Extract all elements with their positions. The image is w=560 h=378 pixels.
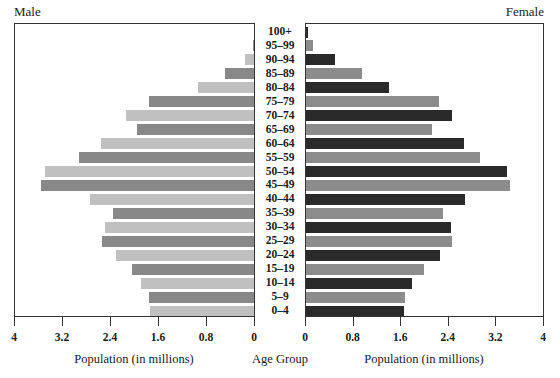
female-bar (306, 194, 465, 205)
male-bar (198, 82, 254, 93)
male-axis-tick-label: 0 (239, 331, 269, 343)
male-axis-tick-label: 3.2 (47, 331, 77, 343)
female-bar (306, 96, 439, 107)
male-bar (101, 138, 254, 149)
age-group-label: 85–89 (255, 66, 305, 80)
female-bar (306, 82, 389, 93)
female-axis-tick-label: 1.6 (385, 331, 415, 343)
age-group-label: 0–4 (255, 303, 305, 317)
female-bar (306, 138, 464, 149)
male-axis-tick-label: 0.8 (191, 331, 221, 343)
male-axis-tick (62, 316, 63, 326)
male-bar (225, 68, 254, 79)
female-bar (306, 152, 480, 163)
male-bar (116, 250, 254, 261)
age-group-label: 60–64 (255, 136, 305, 150)
female-axis-tick (543, 316, 544, 326)
female-axis-tick-label: 4 (528, 331, 558, 343)
male-bar (102, 236, 254, 247)
age-group-label: 70–74 (255, 108, 305, 122)
male-axis-tick (14, 316, 15, 326)
male-bar (132, 264, 254, 275)
age-group-label: 80–84 (255, 80, 305, 94)
male-bar (113, 208, 254, 219)
male-bar (41, 180, 254, 191)
female-bar (306, 124, 432, 135)
female-axis-tick (495, 316, 496, 326)
female-bar (306, 278, 412, 289)
female-axis-tick-label: 2.4 (433, 331, 463, 343)
male-axis-tick (158, 316, 159, 326)
male-bar (149, 292, 254, 303)
female-axis-tick (400, 316, 401, 326)
age-group-label: 35–39 (255, 205, 305, 219)
age-group-axis-title: Age Group (240, 352, 320, 367)
female-bar (306, 250, 440, 261)
female-axis-tick (353, 316, 354, 326)
age-group-label: 40–44 (255, 191, 305, 205)
age-group-label: 50–54 (255, 164, 305, 178)
female-bar (306, 306, 404, 317)
female-x-axis (305, 316, 544, 317)
male-bar (90, 194, 254, 205)
female-bar (306, 222, 451, 233)
male-x-axis-title: Population (in millions) (44, 352, 224, 367)
female-axis-tick-label: 0 (290, 331, 320, 343)
male-bar (245, 54, 254, 65)
male-bar (105, 222, 254, 233)
age-group-label: 25–29 (255, 233, 305, 247)
age-group-label: 30–34 (255, 219, 305, 233)
male-bar (150, 306, 254, 317)
female-axis-tick-label: 3.2 (480, 331, 510, 343)
age-group-label: 5–9 (255, 289, 305, 303)
male-title: Male (14, 4, 41, 20)
age-group-label: 65–69 (255, 122, 305, 136)
male-bar (79, 152, 254, 163)
age-group-label: 15–19 (255, 261, 305, 275)
male-axis-tick-label: 4 (0, 331, 29, 343)
male-bar (126, 110, 254, 121)
age-group-label: 10–14 (255, 275, 305, 289)
age-group-label: 20–24 (255, 247, 305, 261)
male-axis-tick (206, 316, 207, 326)
female-bar (306, 110, 452, 121)
female-bar (306, 236, 452, 247)
female-bar (306, 40, 313, 51)
male-axis-tick-label: 2.4 (95, 331, 125, 343)
male-bar (141, 278, 254, 289)
female-bar (306, 166, 507, 177)
female-bar (306, 27, 308, 38)
male-bar (137, 124, 254, 135)
female-bar (306, 264, 424, 275)
female-bar (306, 292, 405, 303)
age-group-label: 90–94 (255, 52, 305, 66)
male-axis-tick (254, 316, 255, 326)
female-plot-area (305, 23, 544, 316)
male-bar (253, 40, 254, 51)
female-axis-tick-label: 0.8 (338, 331, 368, 343)
female-title: Female (506, 4, 544, 20)
male-axis-tick-label: 1.6 (143, 331, 173, 343)
male-bar (45, 166, 254, 177)
female-axis-tick (305, 316, 306, 326)
male-plot-area (14, 23, 255, 316)
age-group-label: 100+ (255, 24, 305, 38)
female-bar (306, 208, 443, 219)
female-bar (306, 180, 510, 191)
male-bar (149, 96, 254, 107)
female-bar (306, 68, 362, 79)
age-group-label: 45–49 (255, 177, 305, 191)
male-x-axis (14, 316, 255, 317)
female-bar (306, 54, 335, 65)
age-group-label: 75–79 (255, 94, 305, 108)
male-axis-tick (110, 316, 111, 326)
female-axis-tick (448, 316, 449, 326)
age-group-label: 95–99 (255, 38, 305, 52)
female-x-axis-title: Population (in millions) (334, 352, 514, 367)
age-group-label: 55–59 (255, 150, 305, 164)
